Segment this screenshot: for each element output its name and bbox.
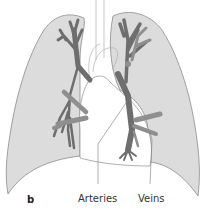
arteries-label: Arteries (78, 194, 117, 204)
trachea (96, 0, 104, 60)
lungs-vascular-diagram (0, 0, 207, 212)
right-lung (6, 15, 84, 194)
veins-label: Veins (138, 194, 165, 204)
panel-label: b (27, 195, 34, 205)
